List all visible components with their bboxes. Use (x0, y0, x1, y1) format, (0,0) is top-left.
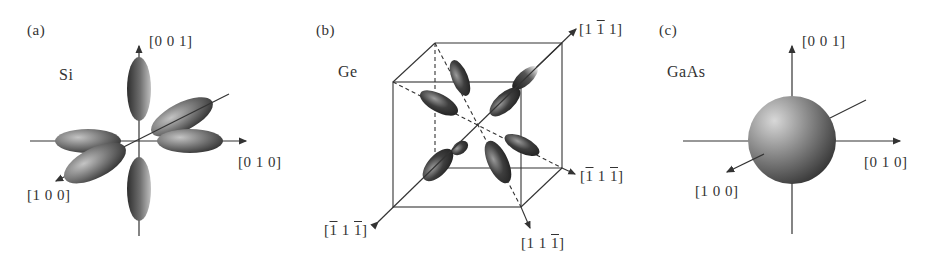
axis-label-001: [0 0 1] (802, 34, 846, 49)
axis-label-11-1bar: [1 1 1] (521, 236, 565, 251)
ellipsoid-upper-back (445, 57, 474, 98)
material-label: Ge (338, 64, 358, 80)
axis-label-100: [1 0 0] (695, 184, 739, 199)
axis-1-1bar-1 (378, 29, 576, 222)
axis-label-010: [0 1 0] (238, 155, 282, 170)
material-label: GaAs (667, 64, 705, 80)
axis-label-1bar-1-1bar-right: [1 1 1] (580, 169, 624, 184)
ellipsoid-bottom (127, 157, 151, 221)
gaas-constant-energy-surface-diagram (640, 0, 932, 269)
panel-gaas: (c) GaAs [0 0 1] [0 1 0] [1 0 0] (640, 0, 932, 269)
panel-tag: (c) (659, 23, 677, 38)
axis-label-100: [1 0 0] (27, 188, 71, 203)
ellipsoid-top (127, 57, 151, 121)
spherical-surface (748, 96, 836, 184)
axis-label-1-1bar-1: [1 1 1] (579, 22, 623, 37)
panel-si: (a) Si [0 0 1] [0 1 0] [1 0 0] (0, 0, 300, 269)
ellipsoid-upper-left (416, 85, 462, 121)
axis-label-1bar-1-1bar-left: [1 1 1] (324, 223, 368, 238)
ellipsoid-right (501, 129, 542, 160)
axis-label-010: [0 1 0] (864, 155, 908, 170)
panel-tag: (a) (27, 23, 45, 38)
axis-label-001: [0 0 1] (149, 34, 193, 49)
material-label: Si (59, 67, 73, 83)
panel-tag: (b) (316, 23, 335, 38)
ellipsoid-right (157, 129, 223, 153)
axis-11-1bar (521, 207, 530, 228)
panel-ge: (b) Ge [1 1 1] [1 1 1] [1 1 1] [1 1 1] (300, 0, 640, 269)
axis-1bar-1-1bar-right (562, 168, 575, 174)
